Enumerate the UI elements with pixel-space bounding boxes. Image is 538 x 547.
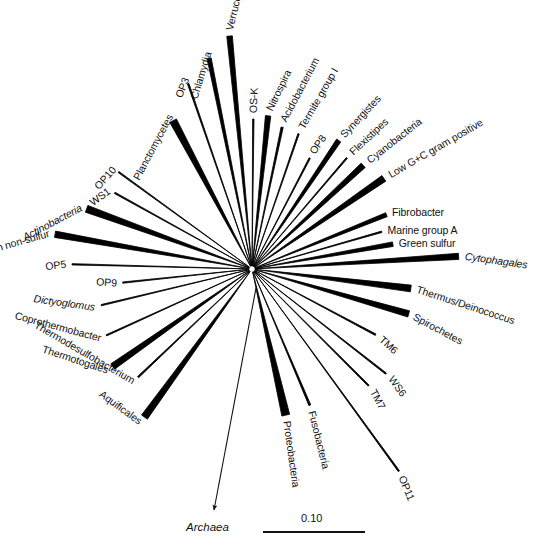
taxon-label-marine-group-a: Marine group A (388, 225, 458, 236)
branch-op9 (123, 269, 249, 283)
branch-thermotogales (111, 271, 250, 369)
branch-chlamydia (207, 58, 251, 266)
archaea-outgroup-arrow (214, 288, 256, 510)
archaea-label: Archaea (186, 521, 229, 533)
taxon-label-green-sulfur: Green sulfur (399, 238, 456, 249)
branch-tm7 (254, 271, 369, 386)
branch-aquificales (142, 271, 251, 419)
taxon-label-op5: OP5 (45, 259, 67, 272)
tree-canvas (0, 0, 538, 547)
branch-green-non-sulfur (54, 231, 249, 268)
branch-thermus-deinococcus (255, 269, 411, 292)
branch-op10 (118, 171, 249, 267)
taxon-label-os-k: OS-K (248, 88, 259, 114)
taxon-label-fibrobacter: Fibrobacter (392, 207, 444, 218)
taxon-label-op9: OP9 (96, 277, 117, 289)
branch-dictyoglomus (101, 270, 249, 306)
branch-thermodesulfobacterium (138, 271, 250, 378)
scale-bar-label: 0.10 (301, 512, 322, 524)
phylogenetic-tree-figure: PlanctomycetesOP3ChlamydiaVerrucomicrobi… (0, 0, 538, 547)
branch-os-k (252, 119, 254, 266)
